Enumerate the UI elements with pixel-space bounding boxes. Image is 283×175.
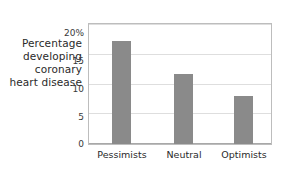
bar-optimists — [234, 96, 253, 144]
y-tick-label-15: 15 — [50, 57, 84, 66]
bar-neutral — [174, 74, 193, 144]
y-tick-label-10: 10 — [50, 85, 84, 94]
x-tick-label-optimists: Optimists — [204, 149, 283, 160]
gridline-20 — [89, 24, 271, 25]
bar-chart-figure: Percentage developing coronary heart dis… — [0, 0, 283, 175]
y-tick-label-20: 20% — [50, 29, 84, 38]
plot-area — [88, 23, 272, 145]
bar-pessimists — [112, 41, 131, 144]
y-tick-label-0: 0 — [50, 140, 84, 149]
y-axis-title-line-1: Percentage — [2, 37, 82, 50]
y-tick-label-5: 5 — [50, 113, 84, 122]
